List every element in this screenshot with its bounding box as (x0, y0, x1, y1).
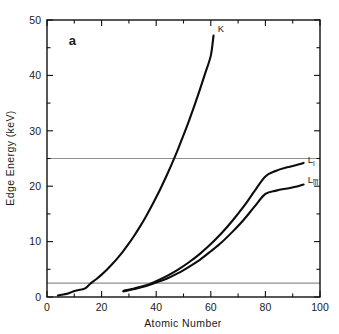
x-tick-label: 40 (150, 301, 162, 313)
curve-l-iii (123, 185, 303, 292)
k-edge-label: K (218, 23, 225, 34)
x-tick-label: 0 (44, 301, 50, 313)
y-tick-label: 0 (35, 291, 41, 303)
x-tick-label: 60 (205, 301, 217, 313)
curve-l-i (123, 163, 303, 291)
edge-energy-chart-figure: 02040608010001020304050 aKLILIII Atomic … (0, 0, 339, 334)
data-curves-group (58, 36, 304, 296)
y-tick-label: 10 (29, 235, 41, 247)
panel-label: a (69, 33, 77, 48)
k-edge-label-text: K (218, 23, 225, 34)
y-axis-title: Edge Energy (keV) (4, 110, 16, 206)
l1-edge-label-subscript: I (313, 160, 315, 167)
y-tick-label: 50 (29, 14, 41, 26)
reference-lines-group (47, 159, 320, 284)
y-tick-label: 20 (29, 180, 41, 192)
x-tick-label: 100 (311, 301, 329, 313)
x-tick-label: 80 (260, 301, 272, 313)
l1-edge-label: LI (308, 154, 315, 167)
l3-edge-label-subscript: III (313, 179, 319, 186)
l3-edge-label: LIII (308, 174, 319, 187)
x-axis-title: Atomic Number (144, 317, 222, 329)
y-tick-label: 30 (29, 125, 41, 137)
curve-k (58, 36, 214, 296)
chart-plot-area: 02040608010001020304050 aKLILIII Atomic … (0, 0, 339, 334)
y-tick-label: 40 (29, 69, 41, 81)
x-tick-label: 20 (96, 301, 108, 313)
